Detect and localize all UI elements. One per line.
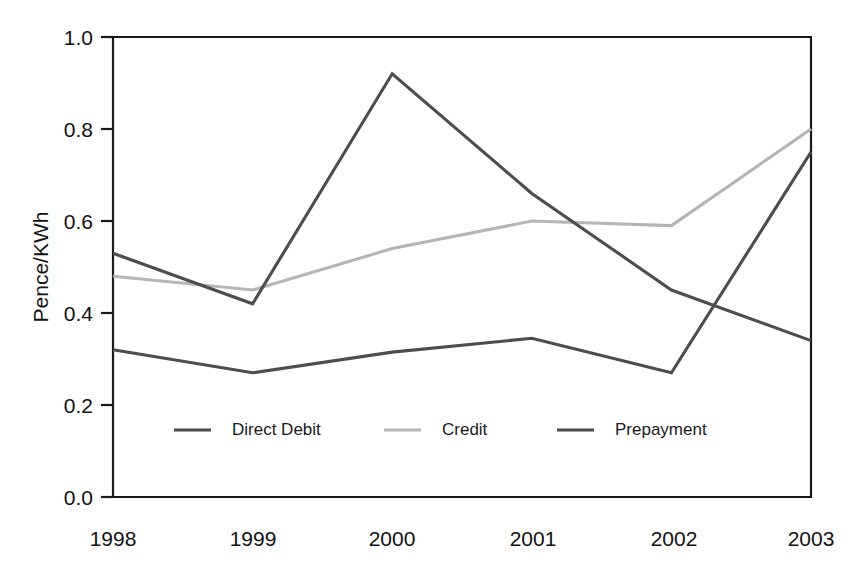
y-axis-label-1-0: 1.0 bbox=[64, 26, 93, 49]
legend-label-credit: Credit bbox=[442, 420, 488, 439]
x-axis-label-1998: 1998 bbox=[90, 527, 137, 550]
x-axis-label-2000: 2000 bbox=[369, 527, 416, 550]
series-line-credit bbox=[113, 129, 811, 290]
line-chart: 1.0 0.8 0.6 0.4 0.2 0.0 Pence/KWh 1998 1… bbox=[0, 0, 860, 574]
y-axis-title: Pence/KWh bbox=[29, 212, 52, 323]
legend-label-prepayment: Prepayment bbox=[615, 420, 707, 439]
legend-entry-prepayment[interactable]: Prepayment bbox=[557, 420, 707, 439]
series-line-direct-debit bbox=[113, 74, 811, 341]
y-axis-ticks bbox=[101, 37, 113, 497]
series-group bbox=[113, 74, 811, 373]
x-axis-label-2003: 2003 bbox=[788, 527, 835, 550]
series-line-prepayment bbox=[113, 152, 811, 373]
x-axis-label-2001: 2001 bbox=[510, 527, 557, 550]
y-axis-label-0-8: 0.8 bbox=[64, 118, 93, 141]
x-axis-label-2002: 2002 bbox=[651, 527, 698, 550]
chart-canvas: 1.0 0.8 0.6 0.4 0.2 0.0 Pence/KWh 1998 1… bbox=[0, 0, 860, 574]
y-axis-label-0-0: 0.0 bbox=[64, 486, 93, 509]
y-axis-label-0-6: 0.6 bbox=[64, 210, 93, 233]
y-axis-label-0-4: 0.4 bbox=[64, 302, 94, 325]
x-axis-label-1999: 1999 bbox=[230, 527, 277, 550]
y-axis-label-0-2: 0.2 bbox=[64, 394, 93, 417]
legend-entry-credit[interactable]: Credit bbox=[384, 420, 488, 439]
x-axis-labels: 1998 1999 2000 2001 2002 2003 bbox=[90, 527, 835, 550]
y-axis-labels: 1.0 0.8 0.6 0.4 0.2 0.0 bbox=[64, 26, 94, 509]
legend-entry-direct-debit[interactable]: Direct Debit bbox=[174, 420, 321, 439]
legend-label-direct-debit: Direct Debit bbox=[232, 420, 321, 439]
chart-legend: Direct Debit Credit Prepayment bbox=[174, 420, 707, 439]
